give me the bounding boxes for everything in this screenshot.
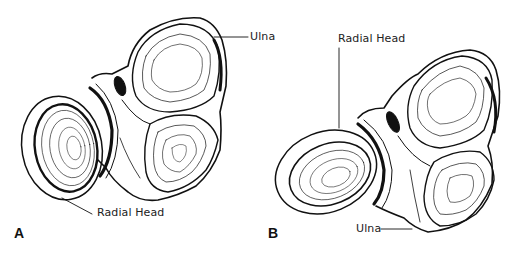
panel-b-drawing [263, 48, 500, 232]
anatomy-figure: Ulna Radial Head A Radial Head Ulna B [0, 0, 517, 254]
panel-a-drawing [14, 18, 248, 214]
panel-label-b: B [268, 225, 278, 241]
label-ulna-a: Ulna [250, 30, 275, 43]
label-radial-head-a: Radial Head [97, 206, 164, 219]
label-radial-head-b: Radial Head [338, 32, 405, 45]
label-ulna-b: Ulna [356, 222, 381, 235]
leader-radial-head-a [62, 198, 92, 214]
panel-label-a: A [14, 225, 24, 241]
